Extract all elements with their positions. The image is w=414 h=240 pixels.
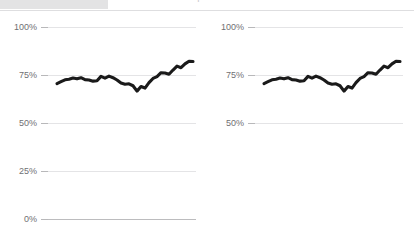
chart-right-line-series-1 [264, 61, 400, 91]
chart-left-plot-area: 0%25%50%75%100% [0, 11, 207, 240]
gridline-0 [48, 219, 196, 220]
y-axis-label-50: 50% [207, 119, 244, 128]
y-axis-label-100: 100% [0, 23, 37, 32]
y-tick-0 [41, 219, 48, 220]
gridline-100 [255, 27, 403, 28]
chart-left-line-series-1 [57, 61, 193, 91]
screenshot-root: Line chart comparison 0%25%50%75%100% 50… [0, 0, 414, 240]
chart-right-plot-area: 50%75%100% [207, 11, 414, 240]
header-placeholder-block [0, 0, 108, 9]
y-tick-50 [41, 123, 48, 124]
y-tick-75 [41, 75, 48, 76]
gridline-25 [48, 171, 196, 172]
y-axis-label-75: 75% [207, 71, 244, 80]
y-axis-label-75: 75% [0, 71, 37, 80]
gridline-100 [48, 27, 196, 28]
gridline-75 [255, 75, 403, 76]
chart-right: 50%75%100% [207, 11, 414, 240]
y-axis-label-50: 50% [0, 119, 37, 128]
y-tick-100 [41, 27, 48, 28]
y-axis-label-25: 25% [0, 167, 37, 176]
y-tick-50 [248, 123, 255, 124]
header-title: Line chart comparison [126, 0, 233, 2]
y-tick-75 [248, 75, 255, 76]
charts-container: 0%25%50%75%100% 50%75%100% [0, 11, 414, 240]
y-tick-100 [248, 27, 255, 28]
gridline-50 [255, 123, 403, 124]
gridline-75 [48, 75, 196, 76]
y-tick-25 [41, 171, 48, 172]
gridline-50 [48, 123, 196, 124]
chart-left: 0%25%50%75%100% [0, 11, 207, 240]
y-axis-label-0: 0% [0, 215, 37, 224]
y-axis-label-100: 100% [207, 23, 244, 32]
